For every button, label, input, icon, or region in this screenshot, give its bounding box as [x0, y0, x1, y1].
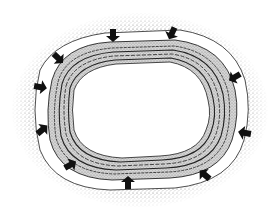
- inner-lumen: [73, 62, 210, 158]
- cell-wall-diagram: [0, 0, 275, 215]
- diagram-canvas: [0, 0, 275, 215]
